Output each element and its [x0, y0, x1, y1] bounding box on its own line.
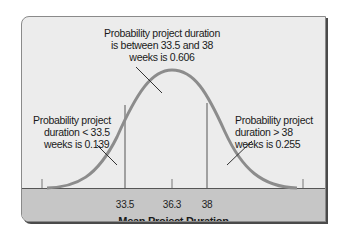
annotation-left-line-3: weeks is 0.139 [33, 138, 143, 150]
annotation-left-line-2: duration < 33.5 [33, 126, 143, 138]
annotation-right: Probability project duration > 38 weeks … [235, 114, 326, 150]
annotation-middle-line-3: weeks is 0.606 [77, 51, 247, 63]
annotation-right-line-2: duration > 38 [235, 126, 326, 138]
chart-panel: Probability project duration is between … [21, 16, 326, 222]
leader-line-middle [136, 67, 162, 93]
annotation-right-line-1: Probability project [235, 114, 326, 126]
x-tick-33-5: 33.5 [116, 199, 134, 210]
annotation-left-line-1: Probability project [33, 114, 143, 126]
annotation-left: Probability project duration < 33.5 week… [33, 114, 143, 150]
annotation-middle-line-2: is between 33.5 and 38 [77, 39, 247, 51]
annotation-right-line-3: weeks is 0.255 [235, 138, 326, 150]
x-tick-36-3: 36.3 [163, 199, 181, 210]
annotation-middle: Probability project duration is between … [77, 27, 247, 63]
x-axis-label: Mean Project Duration [22, 215, 325, 222]
x-tick-38: 38 [202, 199, 213, 210]
annotation-middle-line-1: Probability project duration [77, 27, 247, 39]
